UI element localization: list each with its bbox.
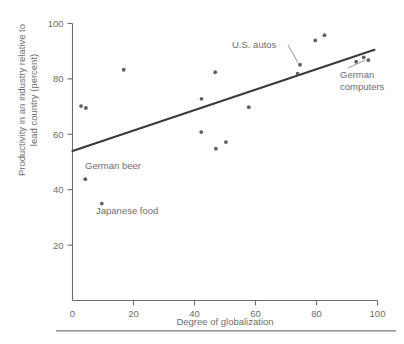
annotation-german-computers-line2: computers — [340, 81, 385, 92]
data-point-0 — [79, 104, 83, 108]
data-point-7 — [213, 70, 217, 74]
data-point-4 — [122, 68, 126, 72]
data-point-6 — [199, 130, 203, 134]
data-point-13 — [313, 38, 317, 42]
data-point-15 — [354, 60, 358, 64]
data-point-german-beer — [83, 177, 87, 181]
chart-canvas: 20406080100 020406080100 Degree of globa… — [0, 0, 404, 344]
y-axis-tick-labels: 20406080100 — [48, 18, 64, 251]
x-tick-label-20: 20 — [128, 308, 139, 319]
y-axis-title-line1: Productivity in an industry relative to — [16, 24, 27, 176]
annotation-japanese-food: Japanese food — [96, 205, 158, 216]
annotation-german-computers-line1: German — [340, 69, 374, 80]
y-tick-label-60: 60 — [53, 129, 64, 140]
data-point-10 — [247, 105, 251, 109]
x-tick-label-80: 80 — [311, 308, 322, 319]
x-axis-ticks — [134, 301, 378, 306]
leader-us-autos — [288, 45, 298, 63]
data-point-1 — [84, 106, 88, 110]
data-point-5 — [200, 97, 204, 101]
data-point-9 — [224, 140, 228, 144]
x-axis-title: Degree of globalization — [176, 316, 273, 327]
y-tick-label-100: 100 — [48, 18, 64, 29]
data-point-german-computers — [362, 55, 366, 59]
y-axis-title-line2: lead country (percent) — [28, 54, 39, 146]
annotation-german-beer: German beer — [85, 160, 141, 171]
y-axis-ticks — [68, 24, 73, 246]
footer-divider — [56, 330, 396, 332]
y-tick-label-40: 40 — [53, 184, 64, 195]
data-point-17 — [366, 58, 370, 62]
data-point-14 — [323, 33, 327, 37]
data-points-group — [79, 33, 370, 205]
y-tick-label-20: 20 — [53, 240, 64, 251]
x-tick-label-100: 100 — [370, 308, 386, 319]
y-tick-label-80: 80 — [53, 73, 64, 84]
data-point-8 — [214, 147, 218, 151]
annotation-us-autos: U.S. autos — [232, 39, 277, 50]
data-point-11 — [296, 72, 300, 76]
x-tick-label-0: 0 — [70, 308, 75, 319]
trend-line — [73, 50, 375, 151]
data-point-u-s-autos — [298, 63, 302, 67]
scatter-chart-figure: 20406080100 020406080100 Degree of globa… — [0, 0, 404, 344]
